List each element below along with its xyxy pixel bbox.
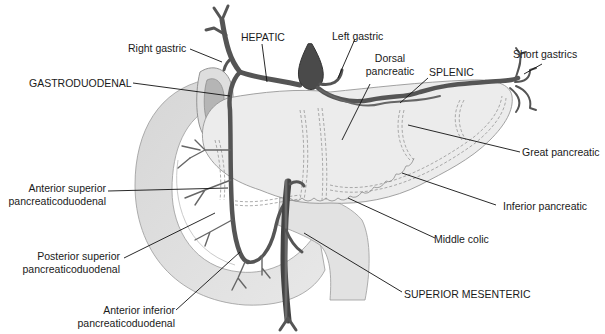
- label-inferior-pancreatic: Inferior pancreatic: [503, 200, 587, 213]
- label-left-gastric: Left gastric: [332, 30, 383, 43]
- label-anterior-inferior-line1: Anterior inferior: [72, 304, 175, 317]
- label-dorsal-pancreatic-line2: pancreatic: [357, 65, 423, 78]
- label-splenic: SPLENIC: [429, 66, 474, 79]
- label-posterior-superior-line2: pancreaticoduodenal: [15, 263, 120, 276]
- pancreas: [202, 80, 512, 206]
- pancreas-arterial-supply-diagram: Right gastric HEPATIC Left gastric Dorsa…: [0, 0, 605, 334]
- label-anterior-superior-line2: pancreaticoduodenal: [6, 195, 106, 208]
- label-anterior-superior-pancreaticoduodenal: Anterior superior pancreaticoduodenal: [6, 182, 106, 207]
- label-great-pancreatic: Great pancreatic: [522, 146, 600, 159]
- label-anterior-inferior-line2: pancreaticoduodenal: [72, 317, 175, 330]
- label-hepatic: HEPATIC: [241, 31, 285, 44]
- label-anterior-inferior-pancreaticoduodenal: Anterior inferior pancreaticoduodenal: [72, 304, 175, 329]
- label-right-gastric: Right gastric: [128, 42, 186, 55]
- label-dorsal-pancreatic: Dorsal pancreatic: [357, 52, 423, 77]
- label-short-gastrics: Short gastrics: [513, 48, 577, 61]
- label-posterior-superior-line1: Posterior superior: [15, 250, 120, 263]
- label-middle-colic: Middle colic: [434, 233, 489, 246]
- label-anterior-superior-line1: Anterior superior: [6, 182, 106, 195]
- label-gastroduodenal: GASTRODUODENAL: [29, 77, 132, 90]
- label-superior-mesenteric: SUPERIOR MESENTERIC: [404, 288, 531, 301]
- label-posterior-superior-pancreaticoduodenal: Posterior superior pancreaticoduodenal: [15, 250, 120, 275]
- label-dorsal-pancreatic-line1: Dorsal: [357, 52, 423, 65]
